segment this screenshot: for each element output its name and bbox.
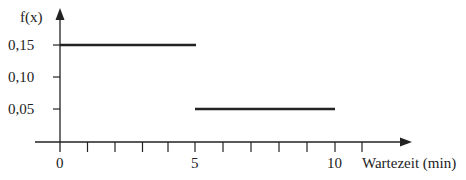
x-ticks: [88, 142, 363, 152]
x-tick-label-5: 5: [191, 156, 199, 171]
y-axis-label: f(x): [20, 10, 43, 25]
x-axis-label: Wartezeit (min): [362, 156, 456, 171]
y-tick-label-015: 0,15: [8, 38, 34, 53]
x-tick-label-0: 0: [56, 156, 64, 171]
y-axis-arrow-icon: [56, 8, 65, 20]
y-tick-label-005: 0,05: [8, 102, 34, 117]
step-function-chart: f(x) 0,15 0,10 0,05 0 5 10 Wartezeit (mi…: [0, 0, 466, 180]
x-axis-arrow-icon: [400, 138, 412, 147]
x-tick-label-10: 10: [327, 156, 342, 171]
y-ticks: [53, 45, 60, 109]
y-tick-label-010: 0,10: [8, 70, 34, 85]
chart-plot-area: [0, 0, 466, 180]
